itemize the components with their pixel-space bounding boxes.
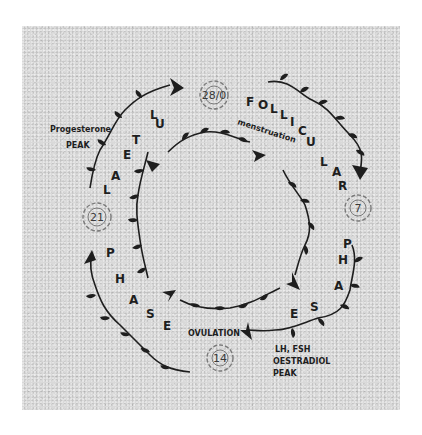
ovulation-label: OVULATION	[188, 329, 240, 338]
follicular-letter: S	[310, 300, 319, 314]
follicular-letter: P	[343, 237, 352, 251]
follicular-letter: I	[290, 115, 294, 129]
day-flower-14: 14	[207, 345, 233, 371]
luteal-letter: A	[129, 293, 139, 307]
luteal-letter: U	[155, 117, 165, 131]
arrow-top-left	[170, 78, 184, 96]
progesterone-label: Progesterone	[50, 125, 112, 134]
luteal-letter: H	[115, 272, 125, 286]
arrow-inner-top	[252, 150, 266, 162]
follicular-letter: L	[280, 108, 288, 122]
follicular-letter: F	[246, 95, 254, 109]
luteal-letter: S	[146, 307, 155, 321]
day-label-21: 21	[90, 211, 104, 224]
follicular-letter: H	[338, 253, 348, 267]
luteal-letter: P	[106, 246, 115, 260]
arrow-bottom	[240, 322, 252, 340]
follicular-letter: U	[306, 135, 316, 149]
day-label-14: 14	[213, 352, 227, 365]
progesterone-peak-label: PEAK	[66, 141, 91, 150]
follicular-letter: A	[334, 279, 344, 293]
arrow-right-top	[352, 165, 368, 180]
follicular-letter: L	[320, 155, 328, 169]
lh-fsh-peak-label: PEAK	[273, 369, 298, 378]
luteal-letter: L	[103, 183, 111, 197]
cycle-diagram: 28/0 7 14 21 F O L L I C U L A R P H A S…	[0, 0, 422, 435]
vine-leaves	[86, 72, 366, 371]
luteal-letter: A	[111, 169, 121, 183]
arrow-inner-left	[146, 160, 160, 172]
inner-vine	[137, 132, 310, 309]
lh-fsh-label: LH, FSH	[275, 345, 311, 354]
arrow-left	[84, 250, 96, 264]
day-label-0: 28/0	[202, 89, 227, 102]
luteal-letter: E	[123, 148, 131, 162]
follicular-letter: R	[338, 179, 347, 193]
luteal-letter: E	[163, 319, 171, 333]
cycle-arrowheads	[84, 78, 368, 340]
follicular-letter: L	[270, 102, 278, 116]
arrow-inner-right	[286, 272, 300, 290]
day-flower-0: 28/0	[200, 81, 228, 109]
day-flower-21: 21	[83, 203, 111, 231]
arrow-inner-bottom	[162, 290, 176, 302]
follicular-letter: O	[258, 98, 268, 112]
day-label-7: 7	[355, 202, 362, 215]
follicular-letter: E	[290, 307, 298, 321]
follicular-letter: A	[332, 165, 342, 179]
luteal-letter: T	[132, 133, 141, 147]
oestradiol-label: OESTRADIOL	[273, 357, 330, 366]
day-flower-7: 7	[345, 195, 371, 221]
